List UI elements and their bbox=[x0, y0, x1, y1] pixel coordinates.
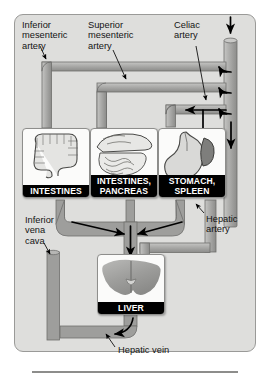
organ-card-intestines-pancreas[interactable]: INTESTINES, PANCREAS bbox=[90, 128, 158, 198]
figure-canvas: INTESTINES INTESTINES, PANCREAS bbox=[0, 0, 268, 386]
organ-card-stomach-spleen[interactable]: STOMACH, SPLEEN bbox=[158, 128, 226, 198]
organ-caption: INTESTINES bbox=[23, 185, 89, 197]
large-intestine-icon bbox=[23, 129, 89, 181]
label-inferior-vena-cava: Inferior vena cava bbox=[25, 215, 54, 246]
label-hepatic-artery: Hepatic artery bbox=[206, 214, 238, 235]
organ-caption: LIVER bbox=[98, 302, 164, 314]
organ-card-liver[interactable]: LIVER bbox=[97, 254, 165, 315]
organ-caption: INTESTINES, PANCREAS bbox=[91, 175, 157, 197]
figure-rule bbox=[32, 371, 238, 373]
label-celiac-artery: Celiac artery bbox=[174, 20, 200, 41]
liver-icon bbox=[98, 255, 164, 299]
label-hepatic-vein: Hepatic vein bbox=[118, 345, 169, 355]
leader-hepatic-artery bbox=[196, 204, 204, 213]
label-superior-mesenteric-artery: Superior mesenteric artery bbox=[88, 20, 133, 51]
organ-card-intestines[interactable]: INTESTINES bbox=[22, 128, 90, 198]
stomach-spleen-icon bbox=[159, 129, 225, 181]
label-inferior-mesenteric-artery: Inferior mesenteric artery bbox=[22, 20, 67, 51]
organ-caption: STOMACH, SPLEEN bbox=[159, 175, 225, 197]
small-intestine-pancreas-icon bbox=[91, 129, 157, 181]
